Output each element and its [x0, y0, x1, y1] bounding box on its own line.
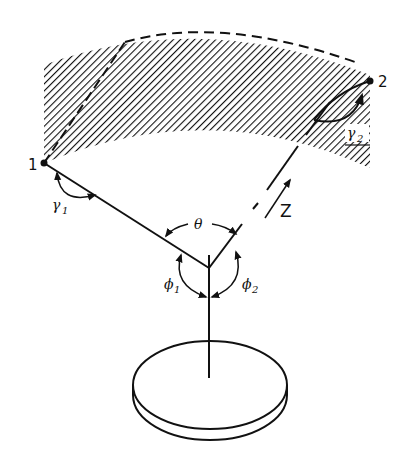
- theta-symbol: θ: [194, 216, 203, 232]
- phi1-symbol: ϕ: [164, 276, 174, 292]
- phi2-subscript: 2: [251, 284, 258, 295]
- gamma1-angle-marker: γ 1: [52, 173, 95, 216]
- gamma2-symbol: γ: [347, 125, 356, 141]
- incident-beam-line: [44, 163, 209, 268]
- z-axis-label: Z: [280, 201, 292, 221]
- gamma1-symbol: γ: [52, 197, 61, 213]
- gamma2-subscript: 2: [356, 133, 363, 144]
- theta-angle-marker: θ: [166, 216, 236, 236]
- phi1-subscript: 1: [174, 284, 180, 295]
- scattering-geometry-diagram: 1 2 γ 2 Z γ 1 θ: [0, 0, 404, 450]
- gamma1-subscript: 1: [62, 205, 68, 216]
- sample-disk: [133, 341, 287, 440]
- point-2-label: 2: [378, 73, 388, 91]
- point-1-label: 1: [28, 156, 38, 174]
- hatched-scan-band: [44, 32, 370, 168]
- phi2-symbol: ϕ: [242, 276, 252, 292]
- phi2-angle-marker: ϕ 2: [212, 252, 258, 297]
